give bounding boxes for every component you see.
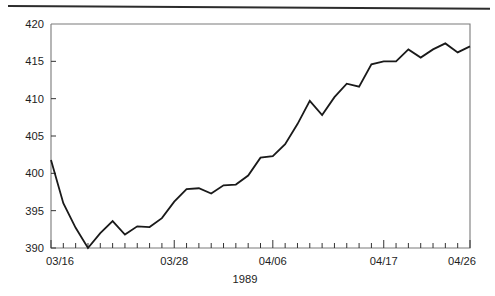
y-tick-label: 400 — [25, 167, 44, 179]
y-axis-tick-labels: 390395400405410415420 — [25, 18, 44, 254]
x-tick-label: 04/06 — [259, 255, 287, 267]
y-tick-label: 405 — [25, 130, 44, 142]
x-axis-tick-labels: 03/1603/2804/0604/1704/26 — [46, 255, 476, 267]
plot-frame — [51, 24, 470, 248]
y-tick-label: 395 — [25, 205, 44, 217]
x-tick-label: 03/16 — [46, 255, 74, 267]
time-series-chart: 390395400405410415420 03/1603/2804/0604/… — [0, 0, 495, 296]
chart-page: 390395400405410415420 03/1603/2804/0604/… — [0, 0, 495, 296]
x-tick-label: 04/17 — [370, 255, 398, 267]
y-tick-label: 420 — [25, 18, 44, 30]
y-tick-label: 410 — [25, 93, 44, 105]
y-tick-label: 415 — [25, 55, 44, 67]
x-tick-label: 03/28 — [160, 255, 188, 267]
x-axis-title: 1989 — [233, 273, 258, 285]
y-axis-ticks — [51, 61, 56, 248]
series-line — [51, 43, 470, 248]
y-tick-label: 390 — [25, 242, 44, 254]
x-axis-ticks — [51, 240, 470, 248]
x-tick-label: 04/26 — [448, 255, 476, 267]
